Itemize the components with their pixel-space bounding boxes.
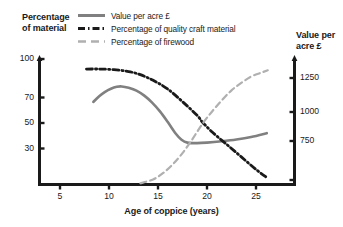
x-tick-15: 15 [145, 191, 171, 201]
y-right-tick-1000: 1000 [300, 106, 334, 116]
y-left-tick-100: 100 [8, 53, 34, 63]
y-left-tick-30: 30 [8, 143, 34, 153]
chart-container: Value per acre £ Percentage of quality c… [0, 0, 343, 227]
series-line-2 [86, 69, 267, 178]
x-tick-25: 25 [243, 191, 269, 201]
y-left-tick-70: 70 [8, 92, 34, 102]
y-right-tick-750: 750 [300, 135, 334, 145]
series-line-1 [93, 86, 266, 143]
series-line-3 [140, 70, 267, 183]
y-left-tick-50: 50 [8, 117, 34, 127]
y-right-tick-1250: 1250 [300, 72, 334, 82]
x-tick-5: 5 [47, 191, 73, 201]
x-tick-10: 10 [96, 191, 122, 201]
x-tick-20: 20 [194, 191, 220, 201]
series-paths [86, 69, 267, 183]
